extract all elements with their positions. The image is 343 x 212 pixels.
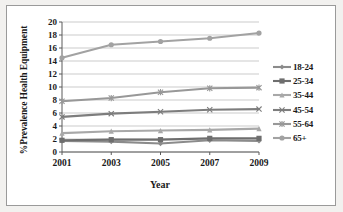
x-tick-label: 2003 (91, 158, 131, 168)
legend-label: 35-44 (293, 90, 313, 100)
marker-circle (59, 55, 64, 60)
y-tick-label: 20 (41, 18, 57, 27)
marker-circle (207, 36, 212, 41)
legend-marker-triangle (272, 89, 292, 101)
legend-marker-asterisk (272, 118, 292, 130)
y-tick-label: 12 (41, 70, 57, 79)
y-tick-label: 16 (41, 44, 57, 53)
marker-square (158, 137, 163, 142)
y-tick-label: 14 (41, 57, 57, 66)
chart-legend: 18-2425-3435-4445-5455-6465+ (272, 60, 338, 145)
marker-diamond (279, 64, 284, 69)
marker-circle (256, 30, 261, 35)
legend-item-18-24[interactable]: 18-24 (272, 60, 338, 74)
y-tick-label: 0 (41, 148, 57, 157)
y-axis-title: %Prevalence Health Equipment (19, 15, 29, 165)
legend-marker-square (272, 75, 292, 87)
legend-marker-x (272, 104, 292, 116)
y-tick-label: 8 (41, 96, 57, 105)
legend-label: 45-54 (293, 105, 313, 115)
x-tick-label: 2001 (42, 158, 82, 168)
x-tick-label: 2007 (190, 158, 230, 168)
legend-item-45-54[interactable]: 45-54 (272, 103, 338, 117)
y-tick-label: 4 (41, 122, 57, 131)
legend-item-55-64[interactable]: 55-64 (272, 117, 338, 131)
legend-label: 18-24 (293, 62, 313, 72)
marker-circle (158, 39, 163, 44)
legend-item-35-44[interactable]: 35-44 (272, 88, 338, 102)
marker-circle (109, 42, 114, 47)
marker-square (256, 136, 261, 141)
marker-square (207, 136, 212, 141)
marker-square (59, 138, 64, 143)
x-tick-label: 2009 (239, 158, 279, 168)
x-axis-title: Year (120, 179, 200, 190)
y-tick-label: 18 (41, 31, 57, 40)
legend-label: 25-34 (293, 76, 313, 86)
y-tick-label: 6 (41, 109, 57, 118)
legend-label: 65+ (293, 133, 307, 143)
x-tick-label: 2005 (141, 158, 181, 168)
y-tick-label: 2 (41, 135, 57, 144)
marker-square (109, 137, 114, 142)
legend-item-25-34[interactable]: 25-34 (272, 74, 338, 88)
legend-label: 55-64 (293, 119, 313, 129)
legend-marker-circle (272, 132, 292, 144)
legend-item-65+[interactable]: 65+ (272, 131, 338, 145)
legend-marker-diamond (272, 61, 292, 73)
y-tick-label: 10 (41, 83, 57, 92)
figure-container: %Prevalence Health Equipment Year 024681… (0, 0, 343, 212)
marker-circle (279, 135, 284, 140)
marker-square (279, 79, 284, 84)
